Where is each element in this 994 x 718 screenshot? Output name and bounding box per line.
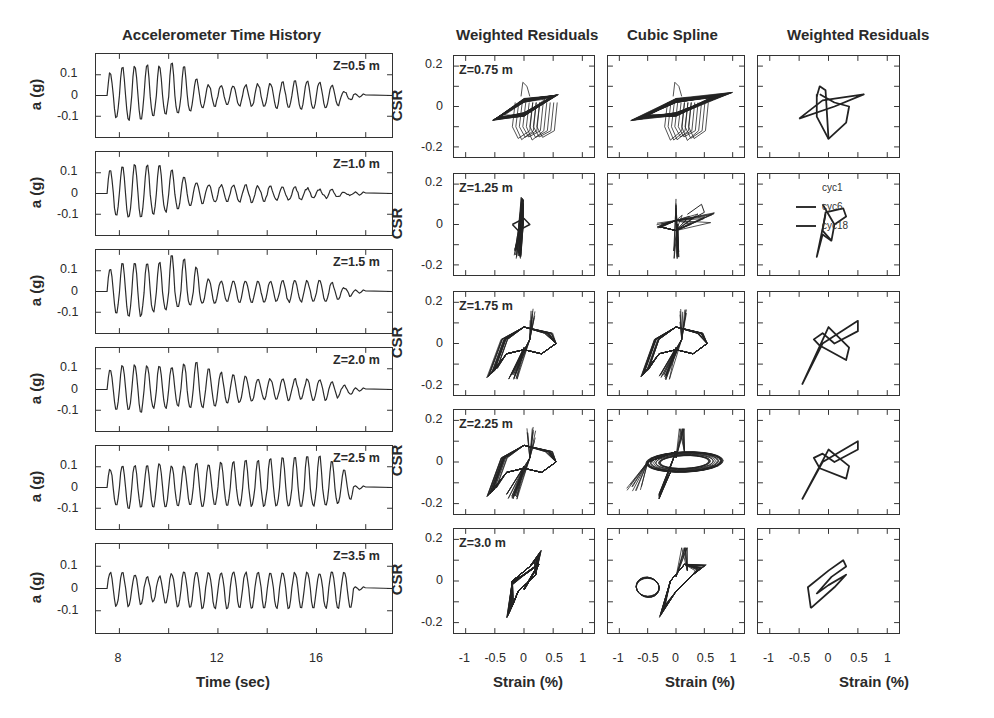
title-cubic-spline: Cubic Spline: [627, 26, 718, 43]
csr-panel: [607, 291, 745, 396]
csr-ytick: -0.2: [421, 615, 443, 629]
accel-ytick: 0: [71, 186, 78, 200]
accel-ylabel: a (g): [27, 372, 44, 404]
accel-ytick: 0: [71, 284, 78, 298]
accel-ytick: 0: [71, 88, 78, 102]
accel-depth-label: Z=3.5 m: [333, 549, 380, 563]
csr-ytick: -0.2: [421, 496, 443, 510]
accel-ytick: 0.1: [60, 360, 77, 374]
csr-ytick: 0: [436, 573, 443, 587]
csr-xtick: 0.5: [850, 651, 867, 665]
legend-label: cyc1: [822, 182, 843, 193]
accel-ylabel: a (g): [27, 470, 44, 502]
csr-panel: [607, 55, 745, 158]
csr-xtick: 0.5: [546, 651, 563, 665]
title-weighted-residuals-1: Weighted Residuals: [456, 26, 598, 43]
legend-swatch: [796, 225, 816, 227]
csr-ytick: 0.2: [425, 175, 442, 189]
csr-xtick: 0: [520, 651, 527, 665]
accel-depth-label: Z=1.5 m: [333, 255, 380, 269]
csr-ylabel: CSR: [388, 207, 405, 239]
csr-xtick: -1: [459, 651, 470, 665]
csr-xtick: -0.5: [789, 651, 811, 665]
csr-panel: [607, 173, 745, 276]
csr-xtick: 1: [730, 651, 737, 665]
accel-ytick: 0: [71, 480, 78, 494]
csr-panel: [757, 528, 900, 634]
csr-panel: [757, 409, 900, 515]
csr-xlabel-1: Strain (%): [493, 673, 563, 690]
accel-ytick: 0.1: [60, 164, 77, 178]
legend-swatch: [796, 206, 816, 208]
accel-depth-label: Z=2.5 m: [333, 451, 380, 465]
csr-xlabel-3: Strain (%): [839, 673, 909, 690]
accel-xtick: 12: [210, 651, 224, 665]
csr-xtick: -0.5: [637, 651, 659, 665]
accel-ytick: -0.1: [57, 207, 79, 221]
csr-ylabel: CSR: [388, 564, 405, 596]
csr-ytick: -0.2: [421, 378, 443, 392]
accel-ytick: -0.1: [57, 109, 79, 123]
accel-ytick: -0.1: [57, 501, 79, 515]
csr-depth-label: Z=2.25 m: [459, 417, 513, 431]
accel-xtick: 8: [115, 651, 122, 665]
csr-depth-label: Z=1.75 m: [459, 299, 513, 313]
accel-depth-label: Z=0.5 m: [333, 59, 380, 73]
csr-xtick: 1: [884, 651, 891, 665]
csr-xtick: 0.5: [697, 651, 714, 665]
accel-depth-label: Z=1.0 m: [333, 157, 380, 171]
csr-ytick: 0: [436, 99, 443, 113]
csr-ylabel: CSR: [388, 445, 405, 477]
accel-ytick: -0.1: [57, 403, 79, 417]
csr-panel: [757, 55, 900, 158]
csr-xlabel-2: Strain (%): [665, 673, 735, 690]
accel-ylabel: a (g): [27, 78, 44, 110]
csr-ylabel: CSR: [388, 89, 405, 121]
accel-ytick: 0.1: [60, 458, 77, 472]
accel-ytick: -0.1: [57, 305, 79, 319]
csr-ytick: 0.2: [425, 294, 442, 308]
csr-xtick: -0.5: [484, 651, 506, 665]
legend-item: cyc6: [796, 197, 848, 216]
cycle-legend: cyc1cyc6cyc18: [796, 178, 848, 235]
csr-depth-label: Z=3.0 m: [459, 536, 506, 550]
accel-ytick: -0.1: [57, 603, 79, 617]
accel-depth-label: Z=2.0 m: [333, 353, 380, 367]
accel-xlabel: Time (sec): [196, 673, 270, 690]
accel-ytick: 0.1: [60, 66, 77, 80]
accel-ylabel: a (g): [27, 274, 44, 306]
accel-ylabel: a (g): [27, 176, 44, 208]
csr-ytick: 0: [436, 336, 443, 350]
legend-item: cyc1: [796, 178, 848, 197]
title-accelerometer: Accelerometer Time History: [122, 26, 321, 43]
csr-ytick: -0.2: [421, 258, 443, 272]
csr-panel: [757, 291, 900, 396]
accel-ytick: 0.1: [60, 262, 77, 276]
accel-ylabel: a (g): [27, 571, 44, 603]
csr-xtick: 0: [825, 651, 832, 665]
csr-ytick: 0.2: [425, 412, 442, 426]
csr-ytick: 0: [436, 454, 443, 468]
legend-label: cyc18: [822, 220, 848, 231]
accel-ytick: 0.1: [60, 558, 77, 572]
csr-depth-label: Z=0.75 m: [459, 63, 513, 77]
csr-xtick: -1: [763, 651, 774, 665]
csr-xtick: 1: [579, 651, 586, 665]
csr-panel: [607, 409, 745, 515]
csr-panel: [607, 528, 745, 634]
csr-ytick: 0: [436, 217, 443, 231]
csr-depth-label: Z=1.25 m: [459, 181, 513, 195]
title-weighted-residuals-2: Weighted Residuals: [787, 26, 929, 43]
legend-label: cyc6: [822, 201, 843, 212]
csr-ytick: -0.2: [421, 140, 443, 154]
accel-ytick: 0: [71, 382, 78, 396]
accel-ytick: 0: [71, 581, 78, 595]
accel-xtick: 16: [309, 651, 323, 665]
csr-ytick: 0.2: [425, 57, 442, 71]
csr-xtick: 0: [672, 651, 679, 665]
csr-ytick: 0.2: [425, 531, 442, 545]
legend-item: cyc18: [796, 216, 848, 235]
csr-xtick: -1: [613, 651, 624, 665]
csr-ylabel: CSR: [388, 326, 405, 358]
